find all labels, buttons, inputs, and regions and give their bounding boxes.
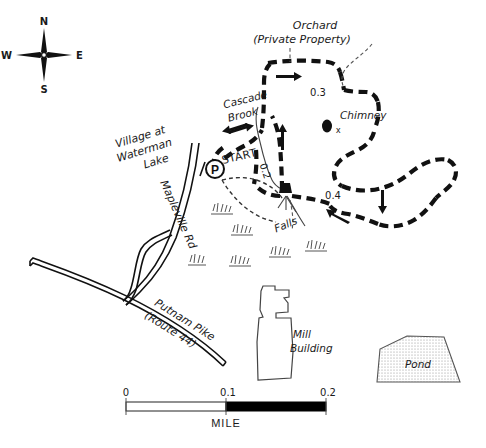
- trail-orchard-east: [340, 72, 344, 90]
- trail-east-lobe-return: [330, 206, 378, 224]
- trail-orchard-top: [268, 61, 340, 72]
- falls-label: Falls: [272, 214, 299, 234]
- scale-tick-0: 0: [123, 387, 129, 398]
- mill-building-shape: [257, 286, 293, 380]
- trail-map: N S E W: [0, 0, 486, 448]
- putnam-pike-east-cap: [223, 362, 226, 366]
- compass-west-point: [16, 52, 44, 58]
- scale-bar-second-half: [226, 402, 326, 411]
- main-trail: [213, 61, 456, 227]
- side-path-lower-loop: [222, 180, 276, 222]
- putnam-pike-edge-north: [30, 258, 226, 362]
- falls-symbol: [279, 183, 292, 193]
- compass-south-label: S: [40, 84, 47, 95]
- compass-east-point: [44, 52, 72, 58]
- orchard-label-line2: (Private Property): [253, 33, 351, 46]
- chimney-dot: [322, 120, 332, 133]
- trail-east-lobe-east: [436, 160, 456, 198]
- brook-channel: [256, 107, 285, 191]
- trail-east-lobe-north: [342, 159, 448, 190]
- scale-bar: 0 0.1 0.2 MILE: [123, 387, 336, 429]
- start-label-group: START: [220, 146, 257, 167]
- putnam-pike-edge-south: [30, 263, 223, 366]
- wetland-symbols: [188, 203, 327, 266]
- mill-label-line1: Mill: [293, 328, 311, 340]
- falls-label-group: Falls: [272, 214, 299, 234]
- trail-mid-north-leg: [272, 116, 282, 190]
- village-label-group: Village at Waterman Lake: [111, 122, 178, 178]
- side-paths: [222, 44, 372, 230]
- mapleville-road-label: Mapleville Rd: [157, 178, 199, 251]
- parking-letter: P: [211, 163, 219, 177]
- marsh-tuft-5: [305, 240, 327, 251]
- parking-marker[interactable]: P: [200, 160, 224, 178]
- scale-bar-first-half: [126, 402, 226, 411]
- trail-east-lobe-south: [378, 198, 436, 226]
- chimney-label: Chimney: [340, 109, 387, 121]
- scale-tick-01: 0.1: [220, 387, 236, 398]
- compass-center: [42, 53, 47, 58]
- chimney-x-marker: x: [336, 125, 341, 135]
- marsh-tuft-4: [269, 246, 291, 257]
- mill-outline: [257, 286, 293, 380]
- scale-unit-label: MILE: [211, 417, 241, 429]
- arrow-east-orchard: [276, 72, 302, 81]
- compass-rose: N S E W: [1, 16, 83, 95]
- trail-chimney-south: [334, 132, 374, 186]
- pond-label: Pond: [405, 358, 431, 370]
- marsh-tuft-6: [188, 254, 206, 265]
- distance-02-group: 0.2: [258, 162, 273, 181]
- compass-east-label: E: [76, 50, 83, 61]
- mill-label-line2: Building: [290, 342, 333, 354]
- map-canvas: N S E W: [0, 0, 486, 448]
- trail-orchard-southeast: [344, 90, 378, 102]
- arrow-west-near-04: [326, 209, 350, 224]
- chimney-marker: x: [322, 120, 341, 136]
- parking-access-tick: [200, 162, 205, 176]
- compass-south-point: [41, 54, 47, 82]
- start-label: START: [220, 146, 257, 167]
- distance-marker-03: 0.3: [310, 87, 326, 98]
- mapleville-spur-edge-west: [123, 230, 170, 301]
- orchard-label-line1: Orchard: [293, 19, 338, 32]
- compass-north-point: [41, 28, 47, 56]
- compass-north-label: N: [40, 16, 48, 27]
- marsh-tuft-1: [211, 203, 233, 214]
- arrow-south-east-lobe: [378, 190, 387, 214]
- side-path-orchard-north: [342, 44, 372, 88]
- scale-tick-02: 0.2: [320, 387, 336, 398]
- marsh-tuft-2: [231, 224, 253, 235]
- distance-marker-02: 0.2: [258, 162, 273, 181]
- mapleville-label-group: Mapleville Rd: [157, 178, 199, 251]
- distance-marker-04: 0.4: [325, 190, 341, 201]
- compass-west-label: W: [1, 50, 12, 61]
- marsh-tuft-3: [229, 255, 251, 266]
